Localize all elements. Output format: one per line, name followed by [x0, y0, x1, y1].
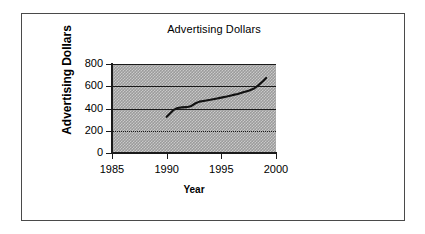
chart-screenshot: Advertising Dollars 8006004002000 198519…: [0, 0, 425, 234]
y-axis-title-line-1: Advertising: [61, 69, 73, 135]
x-tick-mark-1985: [112, 153, 113, 159]
x-tick-label-1990: 1990: [147, 164, 187, 175]
y-tick-label-0: 0: [66, 147, 103, 158]
x-tick-label-1995: 1995: [201, 164, 241, 175]
data-series-layer: [112, 64, 276, 153]
y-axis-title: Advertising Dollars: [49, 17, 85, 143]
x-tick-mark-1995: [221, 153, 222, 159]
x-tick-mark-1990: [167, 153, 168, 159]
x-tick-label-1985: 1985: [92, 164, 132, 175]
y-axis-title-line-2: Dollars: [61, 25, 73, 66]
x-axis-title: Year: [112, 184, 276, 195]
gridline-y-0: [112, 153, 276, 154]
series-line-advertising-dollars: [167, 78, 266, 117]
x-tick-mark-2000: [276, 153, 277, 159]
x-tick-label-2000: 2000: [256, 164, 296, 175]
figure-frame: Advertising Dollars 8006004002000 198519…: [21, 13, 405, 221]
